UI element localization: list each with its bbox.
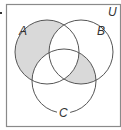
- universe-label: U: [108, 5, 117, 19]
- set-label-a: A: [18, 24, 27, 38]
- marker-dot: [0, 12, 2, 14]
- set-label-c: C: [59, 106, 68, 120]
- venn-diagram: U A B C: [0, 0, 121, 130]
- set-label-b: B: [97, 24, 105, 38]
